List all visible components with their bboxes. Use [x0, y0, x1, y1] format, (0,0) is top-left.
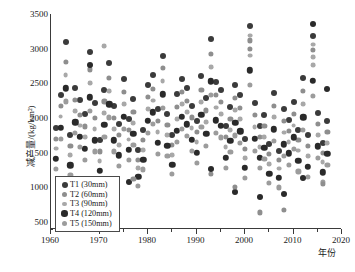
data-point — [62, 85, 68, 91]
legend-item-3[interactable]: T3 (90mm) — [60, 199, 112, 209]
legend-marker-icon — [60, 182, 69, 188]
data-point — [305, 132, 311, 138]
data-point — [82, 145, 88, 151]
data-point — [204, 143, 209, 148]
data-point — [145, 130, 150, 135]
data-point — [150, 109, 156, 115]
legend-marker-icon — [60, 221, 69, 226]
data-point — [155, 129, 160, 134]
x-tick-mark — [341, 229, 342, 234]
data-point — [262, 134, 267, 139]
data-point — [199, 100, 204, 105]
data-point — [310, 33, 316, 39]
legend-item-5[interactable]: T5 (150mm) — [60, 218, 112, 228]
data-point — [272, 138, 277, 143]
data-point — [63, 59, 68, 64]
data-point — [233, 133, 238, 138]
data-point — [125, 147, 131, 153]
y-tick-label: 3000 — [30, 44, 48, 53]
data-point — [233, 184, 238, 189]
data-point — [218, 87, 224, 93]
data-point — [121, 102, 126, 107]
data-point — [63, 99, 68, 104]
data-point — [233, 108, 238, 113]
legend-item-1[interactable]: T1 (30mm) — [60, 180, 112, 190]
data-point — [286, 117, 292, 123]
data-point — [107, 75, 112, 80]
data-point — [232, 82, 238, 88]
data-point — [310, 21, 316, 27]
data-point — [159, 91, 165, 97]
data-point — [53, 146, 58, 151]
legend-item-4[interactable]: T4 (120mm) — [60, 209, 112, 219]
data-point — [179, 113, 185, 119]
legend-marker-icon — [60, 192, 69, 197]
data-point — [247, 53, 252, 58]
data-point — [169, 132, 175, 138]
legend-item-2[interactable]: T2 (60mm) — [60, 190, 112, 200]
legend-item-label: T1 (30mm) — [70, 180, 108, 189]
data-point — [276, 157, 281, 162]
data-point — [223, 145, 228, 150]
data-point — [281, 106, 287, 112]
data-point — [126, 157, 131, 162]
data-point — [87, 109, 92, 114]
data-point — [58, 92, 64, 98]
data-point — [257, 165, 262, 170]
x-tick-label: 2020 — [332, 235, 350, 245]
data-point — [160, 79, 165, 84]
data-point — [305, 163, 311, 169]
data-point — [169, 161, 175, 167]
data-point — [58, 114, 63, 119]
data-point — [242, 136, 248, 142]
chart-legend[interactable]: T1 (30mm)T2 (60mm)T3 (90mm)T4 (120mm)T5 … — [55, 176, 120, 232]
data-point — [116, 143, 121, 148]
y-tick-label: 1500 — [30, 148, 48, 157]
data-point — [218, 99, 223, 104]
data-point — [262, 123, 267, 128]
data-point — [320, 181, 325, 186]
data-point — [73, 109, 78, 114]
data-point — [116, 132, 121, 137]
data-point — [271, 90, 277, 96]
data-point — [111, 115, 116, 120]
legend-item-label: T2 (60mm) — [70, 190, 108, 199]
data-point — [238, 105, 243, 110]
data-point — [150, 122, 155, 127]
data-point — [325, 163, 330, 168]
data-point — [281, 191, 287, 197]
legend-item-label: T4 (120mm) — [70, 209, 112, 218]
data-point — [126, 137, 131, 142]
data-point — [242, 165, 248, 171]
legend-marker-icon — [60, 202, 69, 207]
data-point — [208, 172, 213, 177]
data-point — [101, 122, 107, 128]
data-point — [130, 131, 136, 137]
data-point — [291, 123, 296, 128]
data-point — [257, 210, 262, 215]
data-point — [155, 118, 160, 123]
y-tick-label: 1000 — [30, 183, 48, 192]
legend-item-label: T5 (150mm) — [70, 219, 112, 228]
data-point — [160, 66, 165, 71]
data-point — [227, 138, 233, 144]
data-point — [296, 148, 301, 153]
data-point — [189, 103, 195, 109]
data-point — [58, 136, 63, 141]
data-point — [97, 149, 102, 154]
data-point — [193, 150, 199, 156]
x-tick-label: 1960 — [41, 235, 59, 245]
data-point — [267, 152, 272, 157]
data-point — [82, 157, 87, 162]
data-point — [228, 127, 233, 132]
data-point — [315, 122, 320, 127]
data-point — [243, 156, 248, 161]
data-point — [213, 105, 218, 110]
x-tick-label: 1980 — [138, 235, 156, 245]
data-point — [209, 65, 214, 70]
data-point — [286, 129, 291, 134]
data-point — [131, 176, 136, 181]
data-point — [83, 135, 88, 140]
data-point — [165, 133, 170, 138]
data-point — [150, 86, 155, 91]
